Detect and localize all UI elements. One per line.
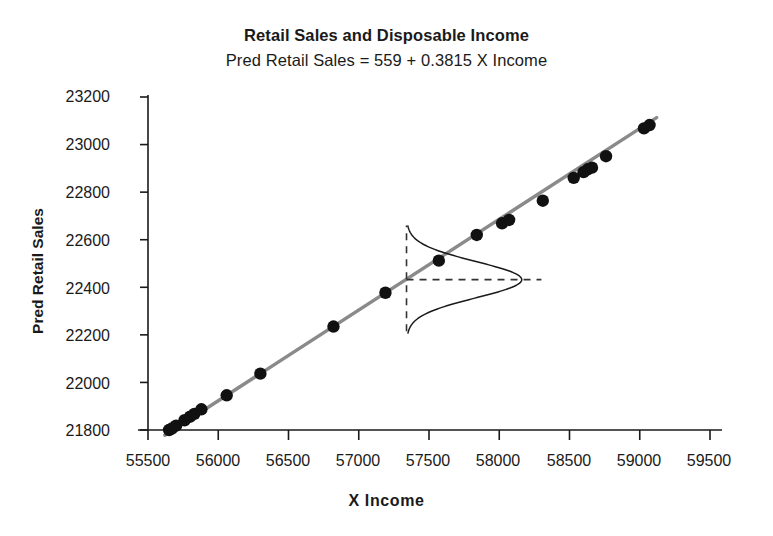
data-point bbox=[503, 214, 515, 226]
plot-area bbox=[0, 0, 773, 536]
chart-container: Retail Sales and Disposable Income Pred … bbox=[0, 0, 773, 536]
data-point bbox=[254, 367, 266, 379]
data-point bbox=[195, 403, 207, 415]
data-point bbox=[471, 229, 483, 241]
x-axis-ticks bbox=[148, 430, 710, 440]
data-point bbox=[643, 119, 655, 131]
y-axis-ticks bbox=[140, 97, 148, 430]
data-point bbox=[379, 287, 391, 299]
data-point bbox=[586, 161, 598, 173]
data-point bbox=[600, 150, 612, 162]
data-point bbox=[537, 195, 549, 207]
data-point bbox=[433, 254, 445, 266]
data-point bbox=[327, 320, 339, 332]
data-point bbox=[220, 389, 232, 401]
regression-line bbox=[165, 118, 657, 436]
